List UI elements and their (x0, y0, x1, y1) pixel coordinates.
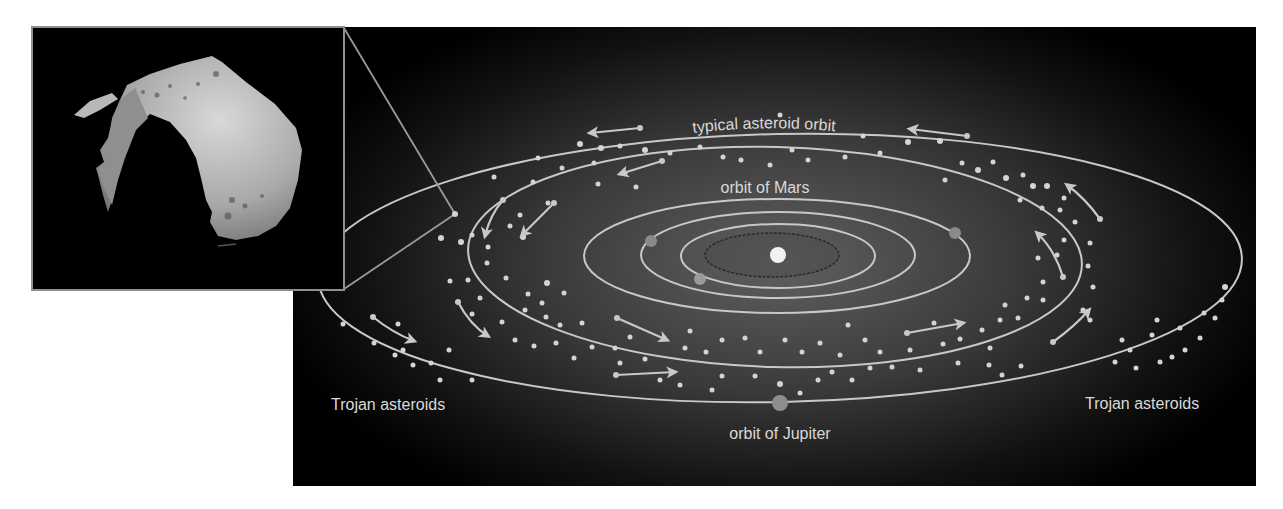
venus-planet-icon (694, 273, 706, 285)
earth-planet-icon (645, 235, 657, 247)
highlighted-asteroid-dot (452, 211, 458, 217)
jupiter-orbit-label: orbit of Jupiter (729, 425, 831, 442)
mars-orbit-label: orbit of Mars (721, 179, 810, 196)
mars-planet-icon (949, 227, 961, 239)
jupiter-planet-icon (772, 395, 788, 411)
trojan-asteroids-right-label: Trojan asteroids (1085, 395, 1199, 412)
sun-icon (770, 247, 786, 263)
asteroid-belt-diagram: typical asteroid orbit orbit of Mars orb… (0, 0, 1283, 509)
trojan-asteroids-left-label: Trojan asteroids (331, 396, 445, 413)
asteroid-photo-inset (32, 27, 344, 290)
